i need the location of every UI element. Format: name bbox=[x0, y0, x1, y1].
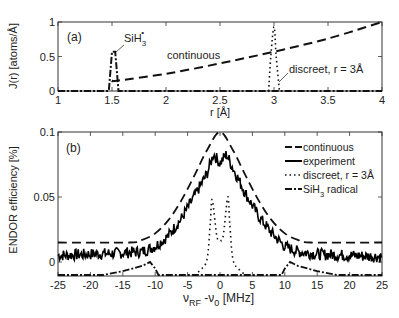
panel-a-label: (a) bbox=[67, 30, 82, 44]
legend: continuous experiment discreet, r = 3Å S… bbox=[285, 141, 374, 199]
sih3-annotation: SiH3• bbox=[124, 28, 147, 48]
x-tick-label: -20 bbox=[82, 279, 98, 291]
x-tick-label: 5 bbox=[249, 279, 255, 291]
x-tick-label: 10 bbox=[279, 279, 291, 291]
panel-b-experiment-curve bbox=[58, 151, 382, 262]
panel-b-x-axis-label: νRF -ν0 [MHz] bbox=[183, 291, 254, 308]
figure: 11.522.533.54 00.51 (a) SiH3• continuous… bbox=[0, 0, 399, 318]
x-tick-label: 2.5 bbox=[212, 94, 227, 106]
continuous-annotation: continuous bbox=[167, 49, 221, 61]
x-tick-label: 2 bbox=[163, 94, 169, 106]
x-tick-label: 20 bbox=[343, 279, 355, 291]
panel-b-label: (b) bbox=[66, 141, 81, 155]
panel-b: -25-20-15-10-50510152025 00.050.1 (b) co… bbox=[7, 126, 388, 308]
x-tick-label: 1 bbox=[55, 94, 61, 106]
x-tick-label: -15 bbox=[115, 279, 131, 291]
legend-discreet-label: discreet, r = 3Å bbox=[303, 169, 374, 181]
x-tick-label: 1.5 bbox=[104, 94, 119, 106]
discreet-leader-line bbox=[279, 73, 288, 82]
y-tick-label: 0.1 bbox=[40, 126, 55, 138]
y-tick-label: 1 bbox=[49, 16, 55, 28]
legend-experiment-label: experiment bbox=[303, 155, 355, 167]
sih3-leader-line bbox=[116, 45, 124, 52]
x-tick-label: 3.5 bbox=[320, 94, 335, 106]
x-tick-label: 0 bbox=[217, 279, 223, 291]
panel-a: 11.522.533.54 00.51 (a) SiH3• continuous… bbox=[7, 16, 385, 118]
panel-b-y-axis-label: ENDOR efficiency [%] bbox=[7, 146, 19, 253]
panel-a-y-axis-label: J(r) [atoms/Å] bbox=[7, 23, 19, 89]
y-tick-label: 0 bbox=[49, 256, 55, 268]
panel-b-discreet-curve bbox=[194, 197, 246, 275]
y-tick-label: 0 bbox=[49, 85, 55, 97]
x-tick-label: -25 bbox=[50, 279, 66, 291]
y-tick-label: 0.5 bbox=[40, 51, 55, 63]
x-tick-label: 25 bbox=[376, 279, 388, 291]
y-tick-label: 0.05 bbox=[34, 191, 55, 203]
panel-a-x-axis-label: r [Å] bbox=[210, 106, 230, 118]
x-tick-label: -10 bbox=[147, 279, 163, 291]
x-tick-label: 15 bbox=[311, 279, 323, 291]
panel-a-discreet-curve bbox=[269, 27, 280, 91]
x-tick-label: 3 bbox=[271, 94, 277, 106]
discreet-annotation: discreet, r = 3Å bbox=[289, 63, 364, 75]
legend-radical-label: SiH3 radical bbox=[303, 183, 358, 199]
legend-continuous-label: continuous bbox=[303, 141, 354, 153]
x-tick-label: -5 bbox=[183, 279, 193, 291]
x-tick-label: 4 bbox=[379, 94, 385, 106]
